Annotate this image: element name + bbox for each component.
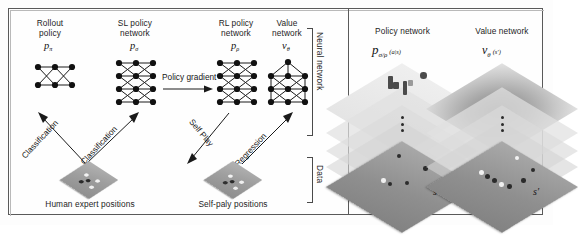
value-stack-ellipsis [501, 116, 504, 136]
neural-network-bracket-label: Neural network [315, 32, 325, 136]
policy-stack-ellipsis [401, 116, 404, 136]
value-input-stone-4 [492, 178, 497, 183]
rollout-policy-label-line1: Rollout [19, 18, 81, 28]
rollout-policy-network-graph [32, 60, 78, 92]
data-bracket [307, 157, 313, 203]
sl-policy-network-graph [113, 57, 159, 109]
policy-input-stone-1 [397, 154, 401, 158]
policy-network-arch-symbol: pσ/ρ(a|s) [372, 42, 401, 58]
sl-policy-label-line1: SL policy [100, 18, 170, 28]
sl-policy-symbol: pσ [130, 40, 138, 51]
value-input-stone-5 [499, 182, 504, 187]
sl-policy-label-line2: network [100, 28, 170, 38]
policy-input-stone-3 [381, 178, 386, 183]
policy-output-bar-3 [403, 81, 407, 95]
value-network-symbol: vθ [282, 40, 290, 51]
policy-network-arch-title: Policy network [355, 26, 450, 36]
value-network-subscript: θ [287, 45, 290, 52]
value-network-input-label: s′ [533, 186, 539, 197]
value-arch-argument: (s′) [493, 48, 501, 55]
value-arch-subscript: θ [487, 51, 490, 58]
policy-gradient-arrow [163, 84, 213, 94]
neural-network-bracket [307, 28, 313, 136]
value-network-arch-title: Value network [456, 26, 548, 36]
value-network-label-line1: Value [252, 18, 322, 28]
self-play-positions-label: Self-paly positions [173, 199, 293, 209]
rl-policy-network-graph [214, 57, 260, 109]
policy-output-bar-2 [393, 82, 399, 89]
value-network-graph [265, 56, 311, 110]
value-network-symbol-base: v [282, 40, 287, 51]
value-network-layer-stack [459, 66, 551, 198]
policy-input-stone-5 [405, 181, 409, 185]
policy-output-bar-4 [408, 80, 413, 86]
value-input-stone-8 [531, 168, 535, 172]
value-input-stone-1 [515, 156, 519, 160]
rl-policy-symbol: pρ [231, 40, 239, 51]
value-input-stone-7 [521, 178, 526, 183]
sl-policy-subscript: σ [135, 45, 138, 52]
rollout-policy-symbol: pπ [44, 40, 52, 51]
rollout-policy-label-line2: policy [19, 28, 81, 38]
value-input-stone-3 [485, 174, 490, 179]
human-expert-positions-label: Human expert positions [25, 199, 155, 209]
policy-arch-symbol-base: p [372, 42, 379, 57]
policy-arch-subscript: σ/ρ [379, 51, 388, 59]
alphago-pipeline-figure: Rollout policy pπ SL policy network pσ [0, 0, 553, 225]
value-network-arch-symbol: vθ(s′) [482, 43, 501, 58]
value-input-stone-2 [479, 170, 484, 175]
data-bracket-label: Data [315, 165, 325, 203]
policy-arch-argument: (a|s) [389, 48, 401, 55]
policy-output-dot-1 [420, 72, 427, 79]
rl-policy-subscript: ρ [236, 45, 239, 52]
value-input-stone-6 [507, 184, 512, 189]
rollout-policy-subscript: π [49, 45, 52, 52]
policy-input-stone-4 [388, 182, 392, 186]
policy-gradient-arrow-label: Policy gradient [162, 72, 216, 82]
